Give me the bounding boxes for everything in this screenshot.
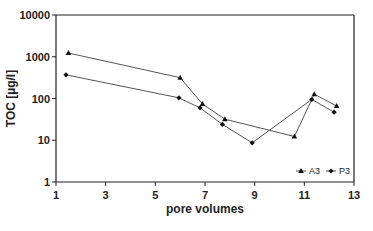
diamond-marker-icon	[176, 95, 181, 100]
diamond-marker-icon	[328, 168, 333, 173]
legend-label: P3	[339, 166, 350, 176]
x-tick-label: 1	[53, 189, 59, 201]
y-tick-label: 1000	[26, 51, 50, 63]
x-tick-label: 5	[152, 189, 158, 201]
legend-item-a3: A3	[296, 166, 320, 176]
toc-line-chart: 110100100010000 135791113 pore volumes T…	[0, 0, 373, 231]
y-tick-label: 10	[38, 134, 50, 146]
x-tick-label: 3	[103, 189, 109, 201]
y-tick-label: 10000	[19, 9, 50, 21]
legend-item-p3: P3	[326, 166, 350, 176]
x-tick-label: 11	[299, 189, 311, 201]
data-series	[63, 50, 339, 145]
y-tick-label: 100	[32, 93, 50, 105]
series-line	[68, 53, 336, 137]
x-axis-title: pore volumes	[166, 202, 244, 216]
triangle-marker-icon	[311, 91, 317, 96]
y-tick-label: 1	[44, 176, 50, 188]
legend-label: A3	[309, 166, 320, 176]
y-axis-ticks: 110100100010000	[19, 9, 56, 188]
legend: A3P3	[296, 166, 350, 176]
diamond-marker-icon	[63, 72, 68, 77]
series-a3	[66, 50, 340, 139]
x-tick-label: 13	[348, 189, 360, 201]
x-tick-label: 9	[252, 189, 258, 201]
diamond-marker-icon	[332, 110, 337, 115]
x-tick-label: 7	[202, 189, 208, 201]
x-axis-ticks: 135791113	[53, 182, 360, 201]
y-axis-title: TOC [µg/l]	[4, 70, 18, 127]
triangle-marker-icon	[222, 116, 228, 121]
triangle-marker-icon	[66, 50, 72, 55]
plot-area	[56, 15, 354, 182]
